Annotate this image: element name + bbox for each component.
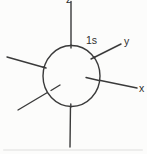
scan-artifact-smudge [3,149,143,151]
y-axis-label: y [124,36,129,46]
orbital-1s-label: 1s [86,35,97,45]
negative-x-axis-tick [43,67,46,68]
orbital-diagram-canvas [0,0,147,154]
negative-z-axis-line [70,104,71,147]
orbital-diagram: z 1s y x [0,0,147,154]
negative-x-axis-line [7,57,46,68]
orbital-sphere-circle [43,46,100,107]
x-axis-label: x [139,83,144,93]
z-axis-label: z [66,0,71,4]
